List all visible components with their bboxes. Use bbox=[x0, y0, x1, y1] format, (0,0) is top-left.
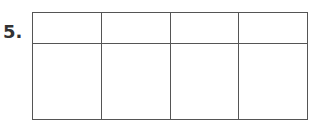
problem-number: 5. bbox=[3, 23, 22, 41]
table-cell[interactable] bbox=[33, 44, 102, 120]
table-header-row bbox=[33, 13, 308, 44]
table-cell[interactable] bbox=[170, 44, 239, 120]
table-cell[interactable] bbox=[101, 44, 170, 120]
table-cell[interactable] bbox=[239, 13, 308, 44]
table-cell[interactable] bbox=[33, 13, 102, 44]
table-body-row bbox=[33, 44, 308, 120]
table-cell[interactable] bbox=[101, 13, 170, 44]
table-cell[interactable] bbox=[170, 13, 239, 44]
table-cell[interactable] bbox=[239, 44, 308, 120]
blank-table bbox=[32, 12, 308, 120]
